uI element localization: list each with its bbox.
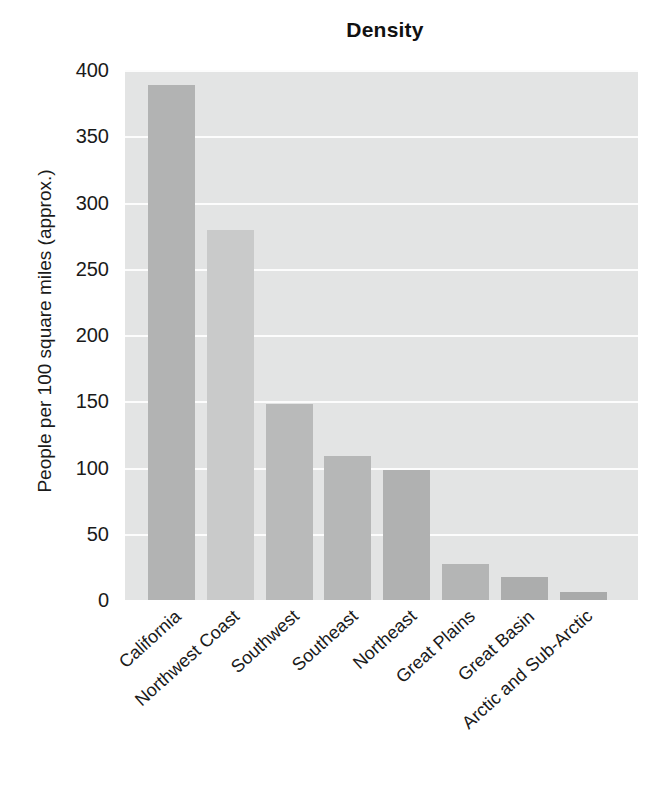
y-axis-tick-label: 400 <box>0 59 117 82</box>
bar <box>501 577 548 600</box>
y-axis-tick-label: 0 <box>0 589 117 612</box>
chart-title: Density <box>130 18 640 42</box>
y-axis-tick-label: 250 <box>0 257 117 280</box>
y-axis-tick-label: 300 <box>0 191 117 214</box>
density-bar-chart: Density People per 100 square miles (app… <box>0 0 654 795</box>
bar <box>207 230 254 600</box>
y-axis-tick-label: 100 <box>0 456 117 479</box>
x-axis-tick-labels: CaliforniaNorthwest CoastSouthwestSouthe… <box>125 600 638 795</box>
y-axis-tick-label: 350 <box>0 125 117 148</box>
y-axis-tick-label: 50 <box>0 522 117 545</box>
bar <box>148 85 195 600</box>
y-axis-tick-labels: 050100150200250300350400 <box>0 70 117 600</box>
y-axis-tick-label: 150 <box>0 390 117 413</box>
bar <box>560 592 607 600</box>
bar <box>383 470 430 600</box>
bar <box>324 456 371 600</box>
bar <box>442 564 489 600</box>
x-axis-tick-label: Northwest Coast <box>131 606 244 711</box>
plot-area <box>125 70 638 600</box>
bar <box>266 404 313 600</box>
y-axis-tick-label: 200 <box>0 324 117 347</box>
bars-layer <box>125 70 638 600</box>
